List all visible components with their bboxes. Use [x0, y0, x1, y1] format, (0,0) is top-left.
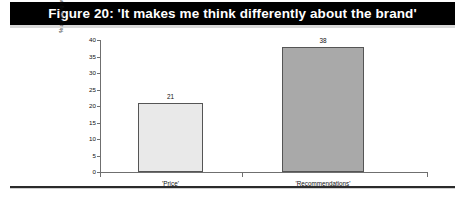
x-axis-tickmark-start [100, 173, 101, 177]
bar-value-recommendations: 38 [282, 37, 364, 44]
x-axis-tickmark-mid [242, 173, 243, 177]
y-axis-tickmark-25 [97, 90, 100, 91]
bar-price [138, 103, 203, 172]
y-axis-tickmark-40 [97, 40, 100, 41]
y-axis-tick-30: 30 [72, 70, 96, 76]
y-axis-tickmark-5 [97, 156, 100, 157]
y-axis-tick-5: 5 [72, 153, 96, 159]
bar-recommendations [282, 47, 364, 172]
y-axis-tickmark-20 [97, 106, 100, 107]
y-axis-line [100, 40, 101, 172]
y-axis-tick-15: 15 [72, 120, 96, 126]
y-axis-tick-20: 20 [72, 103, 96, 109]
page-title: Figure 20: 'It makes me think differentl… [48, 7, 417, 21]
figure-container: Figure 20: 'It makes me think differentl… [0, 0, 465, 201]
chart-plot-area: % agreeing with statement 40 35 30 25 20… [0, 28, 465, 180]
y-axis-tick-25: 25 [72, 87, 96, 93]
y-axis-tick-35: 35 [72, 54, 96, 60]
y-axis-tickmark-30 [97, 73, 100, 74]
y-axis-label: % agreeing with statement [55, 0, 67, 56]
y-axis-tickmark-10 [97, 139, 100, 140]
figure-title-banner: Figure 20: 'It makes me think differentl… [10, 2, 455, 25]
x-axis-tickmark-end [427, 173, 428, 177]
bar-value-price: 21 [138, 93, 203, 100]
y-axis-tick-40: 40 [72, 37, 96, 43]
y-axis-tick-0: 0 [72, 169, 96, 175]
y-axis-tickmark-15 [97, 123, 100, 124]
x-axis-line [100, 172, 428, 173]
y-axis-tickmark-35 [97, 57, 100, 58]
figure-bottom-rule-shadow [10, 188, 455, 189]
y-axis-tick-10: 10 [72, 136, 96, 142]
